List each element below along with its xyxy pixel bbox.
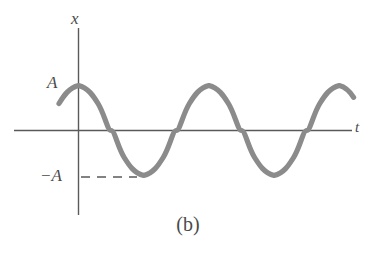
horizontal-axis-label: t: [355, 120, 359, 135]
panel-caption: (b): [166, 214, 210, 234]
amplitude-negative-label: −A: [40, 167, 62, 184]
vertical-axis-label: x: [71, 10, 79, 27]
amplitude-positive-label: A: [47, 74, 57, 91]
figure-panel-b: x t A −A (b): [0, 0, 374, 259]
